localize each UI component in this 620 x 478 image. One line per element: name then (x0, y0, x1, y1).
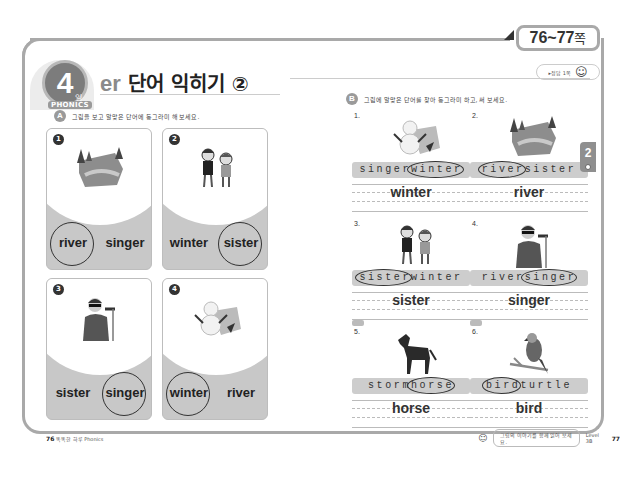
exercise-2: 2. riversister river (470, 112, 588, 212)
book-title: 똑똑한 하루 Phonics (56, 436, 103, 442)
written-answer: river (470, 184, 588, 200)
title-divider (100, 94, 280, 95)
word-option-winter[interactable]: winter (166, 385, 212, 400)
picture-card-1: 1 riversinger (46, 128, 152, 270)
letter-strip: riversister (470, 162, 588, 178)
word-option-sister[interactable]: sister (50, 385, 96, 400)
letter-strip: sisterwinter (352, 270, 470, 286)
letter-strip: singerwinter (352, 162, 470, 178)
reader-icon: ☺ (478, 433, 487, 443)
snowman-winter-illustration (390, 114, 434, 154)
picture-card-2: 2 wintersister (162, 128, 268, 270)
right-page-number: 77 (612, 435, 620, 442)
page-frame-top (30, 38, 510, 41)
section-b-header: B 그림에 알맞은 단어를 찾아 동그라미 하고, 써 보세요. (346, 93, 507, 105)
written-answer: horse (352, 400, 470, 416)
two-girls-illustration (390, 222, 434, 262)
two-girls-illustration (191, 145, 243, 191)
section-b-marker: B (346, 93, 358, 105)
footer-hint: 그림의 이야기를 함께 읽어 보세요. (493, 429, 579, 447)
letter-strip-word[interactable]: singer (359, 164, 411, 175)
word-option-river[interactable]: river (218, 385, 264, 400)
page-range-tag: 76~77쪽 (516, 25, 600, 51)
written-answer: winter (352, 184, 470, 200)
written-answer: bird (470, 400, 588, 416)
exercise-number: 2. (472, 112, 478, 119)
bonus-tag-icon (352, 320, 364, 326)
letter-strip: riversinger (470, 270, 588, 286)
card-number: 3 (53, 284, 64, 295)
page-range-numbers: 76~77 (530, 29, 575, 46)
singer-with-mic-illustration (508, 222, 552, 262)
exercise-4: 4. riversinger singer (470, 220, 588, 320)
letter-strip-word[interactable]: sister (359, 272, 411, 283)
category-label: PHONICS (48, 101, 92, 109)
word-option-singer[interactable]: singer (102, 385, 148, 400)
letter-strip: stormhorse (352, 378, 470, 394)
letter-strip-word[interactable]: singer (525, 272, 577, 283)
word-choices: riversinger (47, 225, 151, 259)
answer-key-link[interactable]: ▸정답 1쪽 ☺ (536, 64, 600, 80)
word-choices: winterriver (163, 375, 267, 409)
letter-strip-word[interactable]: winter (411, 272, 463, 283)
page-tag-pointer (504, 30, 514, 40)
lesson-title: er 단어 익히기 ② (100, 68, 249, 97)
mascot-icon: ☺ (575, 65, 588, 79)
answer-key-text: ▸정답 1쪽 (549, 69, 571, 76)
letter-strip-word[interactable]: bird (486, 380, 520, 391)
exercise-number: 3. (354, 220, 360, 227)
title-prefix: er (100, 71, 121, 96)
title-main: 단어 익히기 ② (128, 72, 249, 96)
word-option-sister[interactable]: sister (218, 235, 264, 250)
exercise-5: 5. stormhorse horse (352, 328, 470, 428)
exercise-number: 6. (472, 328, 478, 335)
day-badge: 4 일 (42, 60, 88, 106)
letter-strip-word[interactable]: winter (411, 164, 463, 175)
letter-strip: birdturtle (470, 378, 588, 394)
bird-on-branch-illustration (508, 330, 552, 370)
section-b-instruction: 그림에 알맞은 단어를 찾아 동그라미 하고, 써 보세요. (364, 95, 507, 104)
picture-card-4: 4 winterriver (162, 278, 268, 420)
letter-strip-word[interactable]: sister (525, 164, 577, 175)
card-number: 4 (169, 284, 180, 295)
level-label: Level 3B (586, 432, 606, 444)
left-page-number: 76 (46, 435, 54, 442)
exercise-1: 1. singerwinter winter (352, 112, 470, 212)
footer-right: ☺ 그림의 이야기를 함께 읽어 보세요. Level 3B 77 (478, 429, 620, 447)
exercise-3: 3. sisterwinter sister (352, 220, 470, 320)
exercise-number: 4. (472, 220, 478, 227)
picture-card-3: 3 sistersinger (46, 278, 152, 420)
exercise-number: 1. (354, 112, 360, 119)
letter-strip-word[interactable]: horse (411, 380, 454, 391)
chapter-side-tab[interactable]: 2 (580, 142, 596, 172)
chapter-number: 2 (585, 146, 592, 160)
letter-strip-word[interactable]: river (482, 164, 525, 175)
word-option-river[interactable]: river (50, 235, 96, 250)
written-answer: sister (352, 292, 470, 308)
card-number: 1 (53, 134, 64, 145)
word-option-winter[interactable]: winter (166, 235, 212, 250)
letter-strip-word[interactable]: storm (368, 380, 411, 391)
horse-illustration (390, 330, 434, 370)
section-a-header: A 그림을 보고 알맞은 단어에 동그라미 해 보세요. (54, 110, 199, 122)
exercise-6: 6. birdturtle bird (470, 328, 588, 428)
day-number: 4 (57, 66, 74, 99)
section-a-instruction: 그림을 보고 알맞은 단어에 동그라미 해 보세요. (72, 112, 199, 121)
bonus-tag-icon (470, 320, 482, 326)
letter-strip-word[interactable]: river (482, 272, 525, 283)
river-landscape-illustration (75, 145, 127, 191)
river-landscape-illustration (508, 114, 552, 154)
word-choices: wintersister (163, 225, 267, 259)
footer-left: 76 똑똑한 하루 Phonics (46, 435, 103, 442)
written-answer: singer (470, 292, 588, 308)
word-choices: sistersinger (47, 375, 151, 409)
tab-dot-icon (585, 164, 591, 170)
word-option-singer[interactable]: singer (102, 235, 148, 250)
page-range-suffix: 쪽 (574, 31, 586, 46)
snowman-winter-illustration (191, 295, 243, 341)
exercise-number: 5. (354, 328, 360, 335)
card-number: 2 (169, 134, 180, 145)
letter-strip-word[interactable]: turtle (520, 380, 572, 391)
singer-with-mic-illustration (75, 295, 127, 341)
section-a-marker: A (54, 110, 66, 122)
